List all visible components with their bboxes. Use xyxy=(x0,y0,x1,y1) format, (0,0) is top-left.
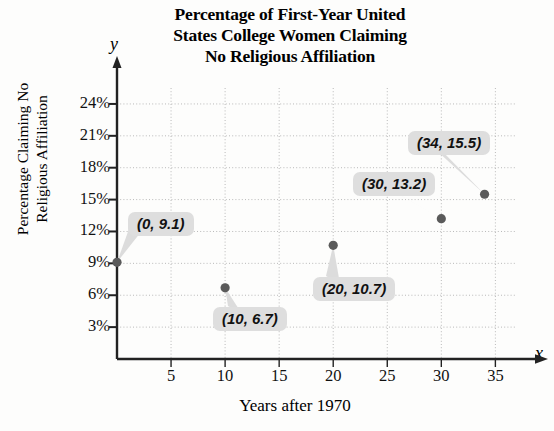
data-point-1 xyxy=(221,283,230,292)
x-tick-label-20: 20 xyxy=(313,366,353,386)
x-axis-title: Years after 1970 xyxy=(170,396,420,416)
y-axis-title-line-1: Percentage Claiming No xyxy=(13,39,32,279)
y-tick-label-24%: 24% xyxy=(50,95,110,112)
y-axis-letter: y xyxy=(110,34,118,55)
chart-title: Percentage of First-Year United States C… xyxy=(140,4,440,67)
point-callout-0: (0, 9.1) xyxy=(128,212,194,236)
x-tick-label-group: 5101520253035 xyxy=(117,366,537,390)
x-tick-label-10: 10 xyxy=(205,366,245,386)
y-tick-label-12%: 12% xyxy=(50,222,110,239)
x-tick-label-35: 35 xyxy=(475,366,515,386)
y-tick-label-9%: 9% xyxy=(50,254,110,271)
point-callout-2: (20, 10.7) xyxy=(313,277,395,301)
point-callout-4: (34, 15.5) xyxy=(408,131,490,155)
chart-title-line-1: Percentage of First-Year United xyxy=(140,4,440,25)
y-tick-label-3%: 3% xyxy=(50,318,110,335)
chart-title-line-3: No Religious Affiliation xyxy=(140,46,440,67)
y-tick-label-15%: 15% xyxy=(50,191,110,208)
x-tick-label-15: 15 xyxy=(259,366,299,386)
data-point-2 xyxy=(329,241,338,250)
y-tick-label-6%: 6% xyxy=(50,286,110,303)
x-tick-label-30: 30 xyxy=(421,366,461,386)
data-point-0 xyxy=(112,258,121,267)
data-point-4 xyxy=(480,190,489,199)
x-tick-label-25: 25 xyxy=(367,366,407,386)
y-tick-label-group: 3%6%9%12%15%18%21%24% xyxy=(44,88,110,359)
y-tick-label-21%: 21% xyxy=(50,127,110,144)
chart-figure: Percentage of First-Year United States C… xyxy=(0,0,554,431)
point-callout-3: (30, 13.2) xyxy=(353,172,435,196)
chart-title-line-2: States College Women Claiming xyxy=(140,25,440,46)
data-point-3 xyxy=(437,214,446,223)
x-tick-label-5: 5 xyxy=(151,366,191,386)
y-tick-label-18%: 18% xyxy=(50,159,110,176)
point-callout-1: (10, 6.7) xyxy=(213,307,287,331)
